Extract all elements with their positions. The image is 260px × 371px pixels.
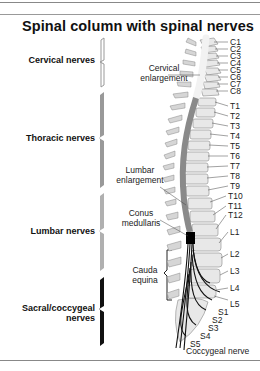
conus-medullaris-shape — [186, 232, 195, 244]
bracket-thoracic — [99, 92, 104, 188]
bracket-sacral — [99, 277, 104, 346]
label-T6: T6 — [230, 152, 240, 161]
label-T7: T7 — [230, 162, 240, 171]
label-T3: T3 — [230, 122, 240, 131]
label-T10: T10 — [228, 192, 243, 201]
label-S4: S4 — [200, 332, 210, 341]
label-L5: L5 — [230, 300, 239, 309]
label-L1: L1 — [230, 228, 239, 237]
label-T5: T5 — [230, 142, 240, 151]
label-T1: T1 — [230, 102, 240, 111]
label-coccygeal-nerve: Coccygeal nerve — [186, 347, 249, 356]
bracket-cervical — [100, 38, 104, 87]
label-T9: T9 — [230, 182, 240, 191]
bottom-rule — [0, 360, 260, 361]
label-T8: T8 — [230, 172, 240, 181]
bracket-lumbar — [99, 193, 104, 271]
label-C8: C8 — [230, 87, 241, 96]
label-L2: L2 — [230, 250, 239, 259]
label-L4: L4 — [230, 284, 239, 293]
label-T2: T2 — [230, 112, 240, 121]
label-L3: L3 — [230, 267, 239, 276]
label-T4: T4 — [230, 132, 240, 141]
label-T12: T12 — [228, 211, 243, 220]
